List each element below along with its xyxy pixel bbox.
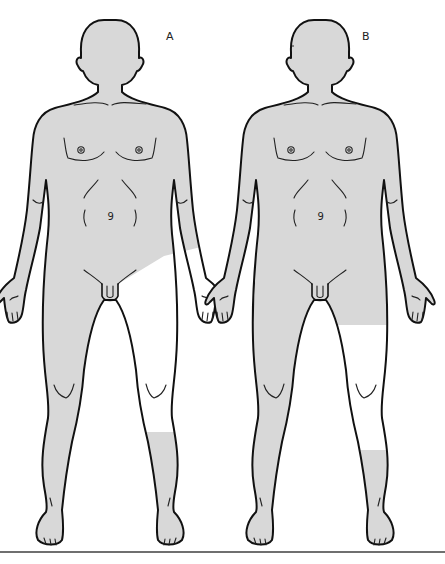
figure-a <box>0 20 230 545</box>
figure-b <box>205 20 444 545</box>
figure-a-label: A <box>166 30 174 43</box>
speck-mark <box>292 45 294 47</box>
bottom-divider <box>0 551 445 553</box>
figure-b-shading <box>205 20 434 545</box>
figure-b-label: B <box>362 30 370 43</box>
body-diagram: 9 <box>0 0 445 564</box>
figure-a-shading <box>0 20 225 545</box>
